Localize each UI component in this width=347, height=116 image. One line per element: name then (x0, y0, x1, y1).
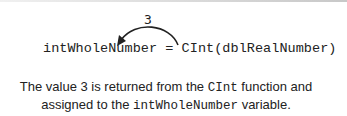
caption-text: variable. (238, 97, 291, 112)
close-paren: ) (328, 41, 336, 56)
function-name: CInt (182, 41, 215, 56)
arrow-label: 3 (144, 12, 152, 27)
caption-text: The value 3 is returned from the (20, 79, 208, 94)
target-variable: intWholeNumber (43, 41, 157, 56)
caption-text: function and (238, 79, 312, 94)
caption-line-1: The value 3 is returned from the CInt fu… (0, 79, 332, 97)
code-statement: intWholeNumber = CInt(dblRealNumber) (43, 41, 336, 56)
caption-text: assigned to the (41, 97, 133, 112)
function-argument: dblRealNumber (222, 41, 328, 56)
caption: The value 3 is returned from the CInt fu… (0, 79, 332, 114)
caption-function-name: CInt (208, 81, 238, 95)
caption-line-2: assigned to the intWholeNumber variable. (0, 97, 332, 115)
assignment-operator: = (157, 41, 181, 56)
caption-variable-name: intWholeNumber (133, 99, 238, 113)
